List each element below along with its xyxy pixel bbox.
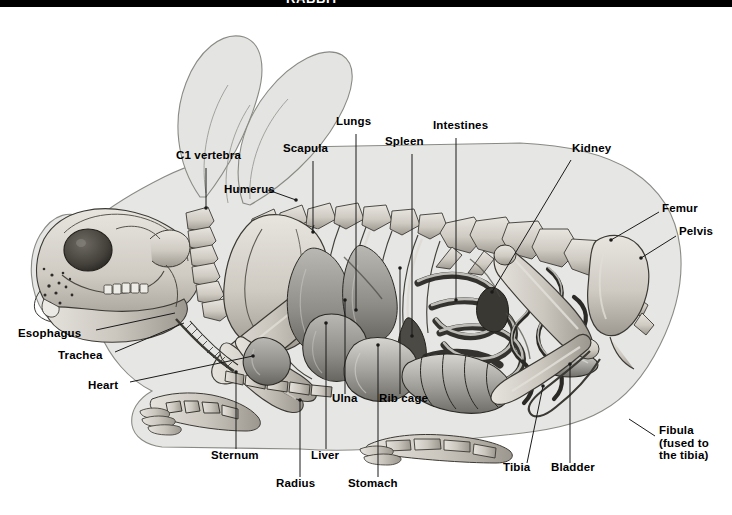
label-spleen: Spleen	[385, 135, 424, 148]
figure-canvas: RABBIT	[0, 0, 732, 515]
label-femur: Femur	[662, 202, 698, 215]
label-ulna: Ulna	[332, 392, 358, 405]
molars	[104, 283, 148, 294]
label-trachea: Trachea	[58, 349, 103, 362]
label-pelvis: Pelvis	[679, 225, 713, 238]
eye-socket	[64, 229, 112, 271]
label-stomach: Stomach	[348, 477, 398, 490]
label-kidney: Kidney	[572, 142, 611, 155]
kidney	[477, 288, 509, 332]
label-c1-vertebra: C1 vertebra	[176, 149, 241, 162]
label-fibula-line3: the tibia)	[659, 449, 732, 462]
label-fibula: Fibula (fused to the tibia)	[659, 424, 732, 462]
label-esophagus: Esophagus	[18, 327, 81, 340]
label-tibia: Tibia	[503, 461, 530, 474]
label-fibula-line1: Fibula	[659, 424, 732, 437]
label-fibula-line2: (fused to	[659, 437, 732, 450]
label-liver: Liver	[311, 449, 339, 462]
hind-paw	[360, 434, 512, 465]
label-lungs: Lungs	[336, 115, 371, 128]
rabbit-anatomy-illustration	[0, 7, 732, 477]
label-scapula: Scapula	[283, 142, 328, 155]
label-sternum: Sternum	[211, 449, 259, 462]
label-intestines: Intestines	[433, 119, 488, 132]
label-rib-cage: Rib cage	[379, 392, 428, 405]
label-humerus: Humerus	[224, 183, 275, 196]
header-caption: RABBIT	[286, 0, 339, 6]
label-bladder: Bladder	[551, 461, 595, 474]
leader-fibula	[629, 419, 655, 436]
header-band: RABBIT	[0, 0, 732, 7]
label-radius: Radius	[276, 477, 315, 490]
label-heart: Heart	[88, 379, 118, 392]
